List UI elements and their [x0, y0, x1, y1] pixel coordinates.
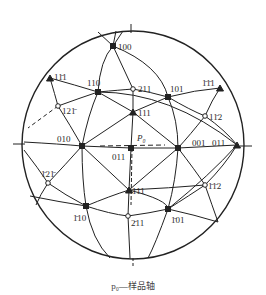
label-111: 111 [138, 108, 151, 118]
pole-m12m1-circle [46, 181, 51, 186]
label-011-edge: 011 [212, 138, 225, 148]
label-101: 101 [170, 84, 184, 94]
pole-211-circle [131, 87, 136, 92]
pole-11m1-triangle [47, 75, 54, 81]
label-11m1: 11̄1 [54, 72, 67, 82]
pole-12m1-circle [56, 104, 61, 109]
pole-m110-square [84, 204, 89, 209]
label-m12m1: 1̄21̄ [41, 169, 57, 179]
label-m111: 1̄11 [132, 186, 145, 196]
label-010: 010 [57, 134, 71, 144]
label-1m11: 1̄1̄1 [202, 78, 215, 88]
label-001: 001 [192, 138, 206, 148]
label-110: 110 [87, 78, 101, 88]
pole-m211-circle [126, 214, 131, 219]
pole-101-square [166, 95, 171, 100]
pole-111-triangle [130, 109, 137, 115]
pole-001-square [176, 146, 181, 151]
pole-labels: 100 11̄1 110 211 101 1̄1̄1 121̄ 111 11̄2… [41, 42, 225, 228]
label-m110: 1̄10 [73, 213, 87, 223]
label-1m12: 11̄2 [209, 112, 222, 122]
pole-010-square [80, 144, 85, 149]
label-m1m12: 1̄1̄2 [208, 181, 221, 191]
sample-axis-label: P₀ [136, 133, 146, 143]
pole-m101-square [166, 207, 171, 212]
label-m101: 1̄01 [171, 215, 185, 225]
label-12m1: 121̄ [62, 106, 78, 116]
pole-1m12-circle [203, 114, 208, 119]
vertical-dashed-axis [131, 148, 132, 205]
pole-100-square [111, 44, 116, 49]
label-100: 100 [118, 42, 132, 52]
pole-m1m12-circle [203, 183, 208, 188]
label-211: 211 [138, 84, 151, 94]
stereographic-projection: 100 11̄1 110 211 101 1̄1̄1 121̄ 111 11̄2… [0, 0, 266, 295]
label-m211: 2̄11 [131, 218, 144, 228]
pole-110-square [96, 90, 101, 95]
label-011-center: 011 [112, 152, 125, 162]
pole-011-square [129, 146, 134, 151]
figure-caption: p₀—样品轴 [111, 280, 155, 291]
